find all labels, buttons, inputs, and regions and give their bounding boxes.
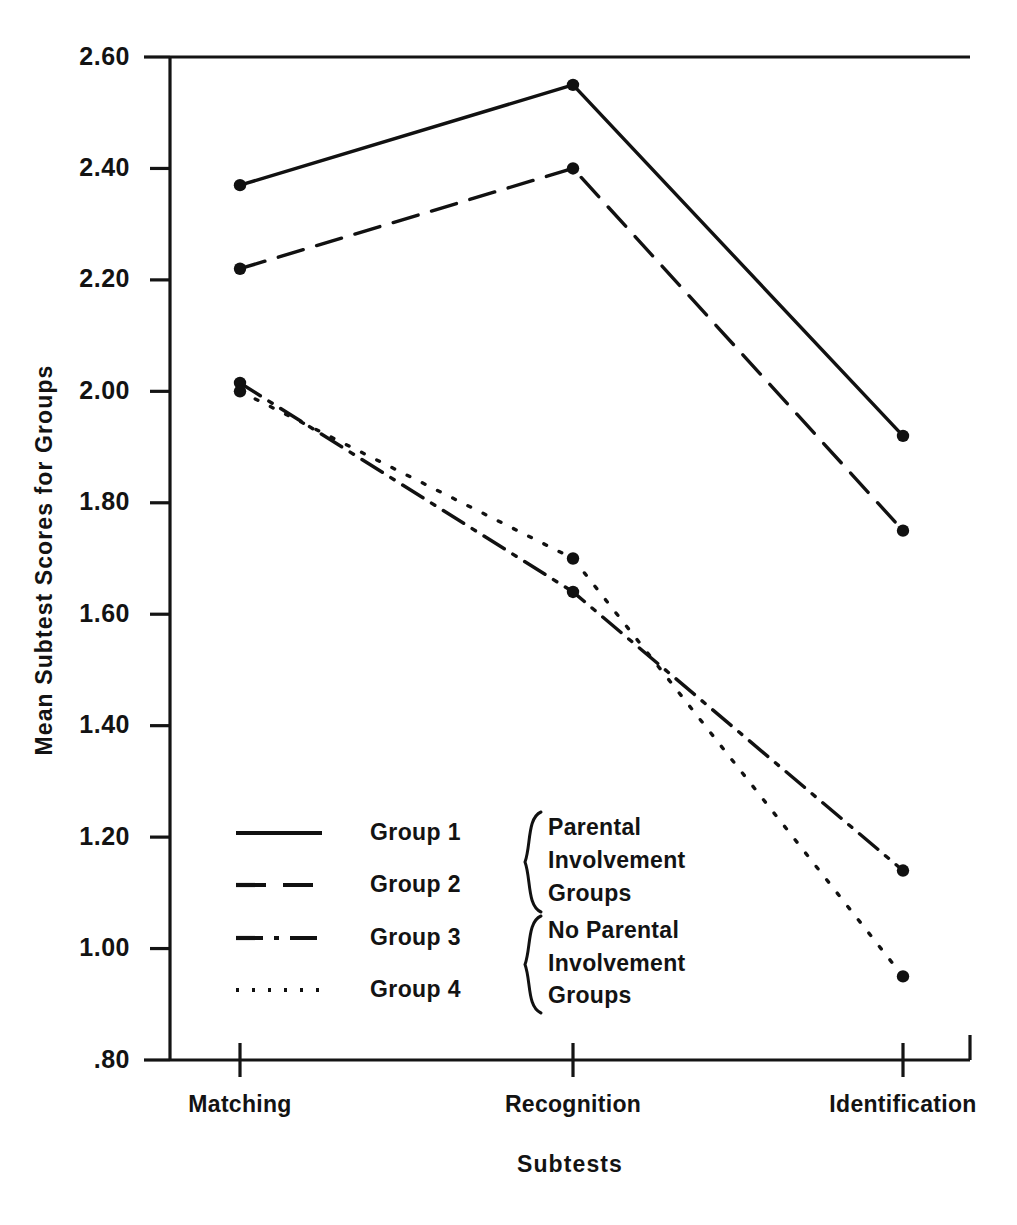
y-tick-label: 2.00 — [79, 376, 130, 404]
x-tick-label: Recognition — [505, 1091, 641, 1117]
legend-brace-text: Involvement — [548, 847, 686, 873]
y-axis-title: Mean Subtest Scores for Groups — [31, 365, 57, 756]
y-tick-label: 2.40 — [79, 153, 130, 181]
legend-brace-1 — [525, 812, 541, 912]
series-line-group-1 — [240, 85, 903, 436]
data-point — [234, 263, 246, 275]
x-axis-ticks: MatchingRecognitionIdentification — [188, 1043, 976, 1117]
data-point — [234, 385, 246, 397]
data-point — [567, 552, 579, 564]
data-point — [234, 179, 246, 191]
legend-brace-text: Groups — [548, 880, 632, 906]
legend-brace-text: Involvement — [548, 950, 686, 976]
data-point — [567, 586, 579, 598]
y-tick-label: 1.20 — [79, 822, 130, 850]
x-tick-label: Matching — [188, 1091, 291, 1117]
x-tick-label: Identification — [829, 1091, 976, 1117]
y-tick-label: 1.40 — [79, 710, 130, 738]
data-point — [897, 524, 909, 536]
legend-brace-text: No Parental — [548, 917, 679, 943]
y-axis-ticks: 2.602.402.202.001.801.601.401.201.00.80 — [79, 42, 170, 1073]
y-tick-label: 2.60 — [79, 42, 130, 70]
y-tick-label: 1.00 — [79, 933, 130, 961]
data-point — [897, 864, 909, 876]
chart-figure: 2.602.402.202.001.801.601.401.201.00.80 … — [0, 0, 1017, 1225]
x-axis-title: Subtests — [517, 1151, 623, 1177]
chart-legend: Group 1Group 2Group 3Group 4ParentalInvo… — [236, 812, 686, 1013]
y-tick-label: .80 — [94, 1045, 130, 1073]
data-point — [897, 970, 909, 982]
legend-brace-2 — [525, 916, 541, 1013]
data-point — [567, 79, 579, 91]
legend-label-1: Group 1 — [370, 819, 461, 845]
line-chart-svg: 2.602.402.202.001.801.601.401.201.00.80 … — [0, 0, 1017, 1225]
y-tick-label: 1.60 — [79, 599, 130, 627]
series-line-group-2 — [240, 168, 903, 530]
y-tick-label: 2.20 — [79, 264, 130, 292]
legend-label-2: Group 2 — [370, 871, 461, 897]
y-tick-label: 1.80 — [79, 487, 130, 515]
legend-brace-text: Groups — [548, 982, 632, 1008]
data-point — [897, 430, 909, 442]
series-line-group-3 — [240, 383, 903, 871]
legend-label-3: Group 3 — [370, 924, 461, 950]
legend-label-4: Group 4 — [370, 976, 461, 1002]
legend-brace-text: Parental — [548, 814, 641, 840]
data-point — [567, 162, 579, 174]
